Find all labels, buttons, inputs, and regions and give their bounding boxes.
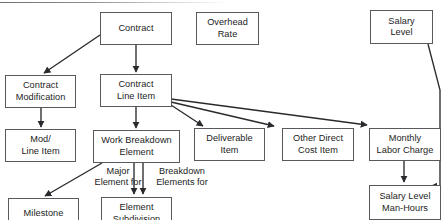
node-contract-line-item-label: Contract Line Item bbox=[117, 79, 155, 102]
node-contract-line-item[interactable]: Contract Line Item bbox=[100, 74, 172, 107]
node-mod-line-item[interactable]: Mod/ Line Item bbox=[5, 129, 76, 162]
node-work-breakdown-element-label: Work Breakdown Element bbox=[101, 135, 172, 158]
node-contract-label: Contract bbox=[118, 23, 153, 34]
node-salary-level-man-hours-label: Salary Level Man-Hours bbox=[379, 191, 430, 214]
node-mod-line-item-label: Mod/ Line Item bbox=[21, 134, 59, 157]
node-other-direct-cost-item[interactable]: Other Direct Cost Item bbox=[282, 128, 354, 161]
node-salary-level[interactable]: Salary Level bbox=[370, 10, 433, 44]
node-overhead-rate-label: Overhead Rate bbox=[207, 17, 248, 40]
node-other-direct-cost-item-label: Other Direct Cost Item bbox=[293, 133, 343, 156]
node-contract[interactable]: Contract bbox=[100, 12, 172, 45]
edge-label-major-element-for: Major Element for bbox=[84, 166, 152, 189]
edge-contract-line-item-to-monthly-labor-charge bbox=[171, 99, 367, 125]
node-deliverable-item-label: Deliverable Item bbox=[206, 133, 253, 156]
node-salary-level-label: Salary Level bbox=[388, 16, 414, 39]
node-work-breakdown-element[interactable]: Work Breakdown Element bbox=[93, 130, 180, 163]
edge-salary-level-to-salary-level-man-hours bbox=[428, 44, 440, 186]
node-contract-modification-label: Contract Modification bbox=[16, 80, 66, 103]
edge-label-breakdown-elements-for: Breakdown Elements for bbox=[146, 166, 218, 189]
node-milestone-label: Milestone bbox=[24, 208, 64, 219]
scan-artifact-line bbox=[0, 2, 230, 3]
node-overhead-rate[interactable]: Overhead Rate bbox=[196, 12, 259, 45]
node-milestone[interactable]: Milestone bbox=[8, 198, 79, 220]
diagram-canvas: Contract Overhead Rate Salary Level Cont… bbox=[0, 0, 441, 220]
node-deliverable-item[interactable]: Deliverable Item bbox=[194, 128, 265, 161]
edge-contract-to-contract-modification bbox=[44, 35, 100, 73]
node-salary-level-man-hours[interactable]: Salary Level Man-Hours bbox=[369, 185, 441, 220]
node-element-subdivision[interactable]: Element Subdivision bbox=[101, 197, 172, 220]
node-monthly-labor-charge[interactable]: Monthly Labor Charge bbox=[369, 128, 441, 161]
node-monthly-labor-charge-label: Monthly Labor Charge bbox=[377, 133, 434, 156]
node-element-subdivision-label: Element Subdivision bbox=[113, 202, 161, 220]
node-contract-modification[interactable]: Contract Modification bbox=[5, 75, 76, 108]
